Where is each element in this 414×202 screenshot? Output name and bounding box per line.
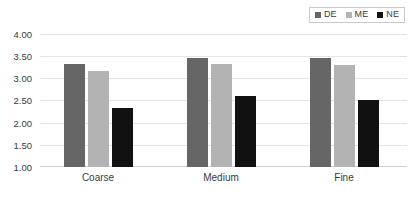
bar-medium-me[interactable] xyxy=(211,64,232,167)
gridline xyxy=(40,56,407,57)
bar-coarse-ne[interactable] xyxy=(112,108,133,167)
bar-fine-me[interactable] xyxy=(334,65,355,167)
gridline xyxy=(40,34,407,35)
bar-coarse-me[interactable] xyxy=(88,71,109,167)
y-axis-tick-label: 3.50 xyxy=(0,51,32,62)
y-axis-tick-label: 3.00 xyxy=(0,73,32,84)
x-axis-label-medium: Medium xyxy=(203,172,239,183)
y-axis-tick-label: 1.00 xyxy=(0,162,32,173)
x-axis-label-fine: Fine xyxy=(334,172,353,183)
legend-item-ne[interactable]: NE xyxy=(377,10,399,19)
y-axis-tick-label: 1.50 xyxy=(0,140,32,151)
bar-fine-de[interactable] xyxy=(310,58,331,167)
legend-swatch-ne xyxy=(377,12,383,18)
y-axis-tick-label: 4.00 xyxy=(0,29,32,40)
y-axis-tick-label: 2.00 xyxy=(0,118,32,129)
plot-area xyxy=(40,34,407,167)
y-axis-tick-label: 2.50 xyxy=(0,95,32,106)
legend-label-ne: NE xyxy=(386,10,399,19)
bar-medium-ne[interactable] xyxy=(235,96,256,167)
legend-item-de[interactable]: DE xyxy=(315,10,337,19)
bar-chart: DE ME NE 4.00 3.50 3.00 2.50 2.00 1.50 1… xyxy=(0,0,414,202)
legend-item-me[interactable]: ME xyxy=(346,10,369,19)
bar-coarse-de[interactable] xyxy=(64,64,85,167)
x-axis-label-coarse: Coarse xyxy=(82,172,114,183)
legend-label-de: DE xyxy=(324,10,337,19)
legend-swatch-de xyxy=(315,12,321,18)
bar-fine-ne[interactable] xyxy=(358,100,379,167)
bar-medium-de[interactable] xyxy=(187,58,208,168)
chart-legend: DE ME NE xyxy=(309,7,405,23)
legend-label-me: ME xyxy=(355,10,369,19)
legend-swatch-me xyxy=(346,12,352,18)
